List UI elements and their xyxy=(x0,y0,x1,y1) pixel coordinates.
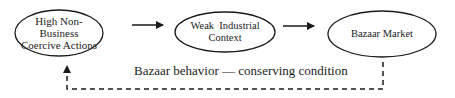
node-label-line: Business xyxy=(39,27,78,39)
node-label-line: High Non- xyxy=(35,15,82,27)
node-bazaar-market: Bazaar Market xyxy=(328,24,436,44)
node-label-line: Weak Industrial xyxy=(190,20,259,32)
node-label-line: Coercive Actions xyxy=(21,39,97,51)
node-label-line: Bazaar Market xyxy=(351,28,413,40)
node-label-line: Context xyxy=(208,32,241,44)
feedback-label: Bazaar behavior — conserving condition xyxy=(134,63,348,79)
node-high-non-business-coercive-actions: High Non- Business Coercive Actions xyxy=(15,12,103,54)
node-weak-industrial-context: Weak Industrial Context xyxy=(175,16,275,48)
